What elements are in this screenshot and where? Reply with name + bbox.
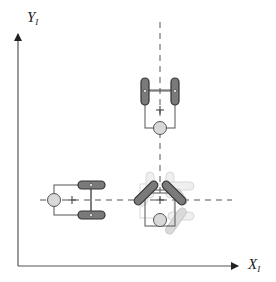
x-axis-label: XI bbox=[248, 257, 260, 274]
y-axis-label-subscript: I bbox=[35, 17, 38, 27]
caster-icon bbox=[154, 214, 167, 227]
diagram-svg bbox=[0, 0, 276, 282]
caster-icon bbox=[48, 194, 61, 207]
caster-icon bbox=[154, 122, 167, 135]
x-axis-label-subscript: I bbox=[257, 264, 260, 274]
x-axis-label-text: X bbox=[248, 256, 257, 272]
y-axis-label: YI bbox=[27, 10, 38, 27]
robot-top bbox=[141, 78, 179, 135]
diagram-canvas: YI XI bbox=[0, 0, 276, 282]
